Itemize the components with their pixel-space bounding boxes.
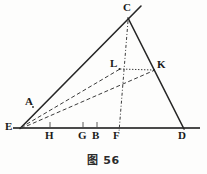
ray-e-c-extended (20, 6, 141, 129)
point-label-b: B (92, 130, 99, 141)
point-label-d: D (178, 130, 186, 141)
segment-c-d (128, 18, 184, 129)
geometry-figure: C A E D L K H G B F 图 56 (0, 0, 207, 174)
vertex-dot-k (153, 69, 155, 71)
point-label-c: C (123, 2, 131, 13)
vertex-dot-l (119, 68, 121, 70)
segment-e-k (21, 70, 155, 129)
point-label-k: K (157, 59, 166, 70)
geometry-canvas (0, 0, 207, 174)
point-label-f: F (113, 130, 120, 141)
figure-caption: 图 56 (0, 151, 207, 167)
segment-l-k (120, 69, 153, 70)
axis-c-f (119, 21, 128, 132)
point-label-h: H (45, 130, 54, 141)
point-label-a: A (25, 96, 33, 107)
point-label-e: E (5, 121, 12, 132)
point-label-g: G (78, 130, 87, 141)
point-label-l: L (110, 58, 117, 69)
